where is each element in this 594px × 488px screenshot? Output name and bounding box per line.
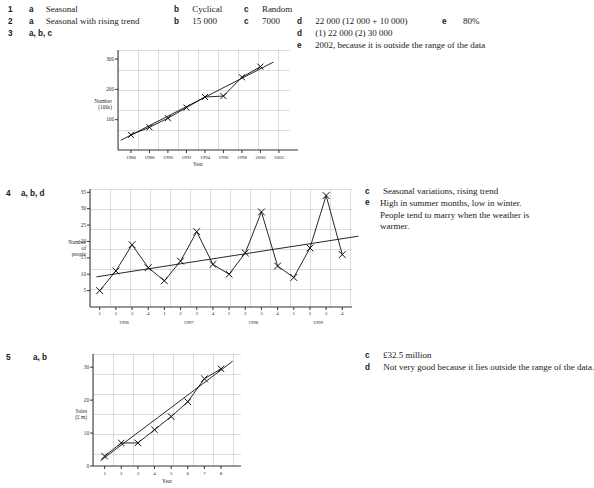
part-text-1b: Cyclical <box>192 4 222 14</box>
part-label-1a: a <box>29 5 34 14</box>
part-text-3d: (1) 22 000 (2) 30 000 <box>315 28 392 38</box>
part-text-3e: 2002, because it is outside the range of… <box>315 40 485 50</box>
part-inline-q3: a, b, c <box>29 29 52 38</box>
chart-q5: Sales(£ m) Year 010203012345678 <box>55 348 255 488</box>
part-label-4e: e <box>365 198 370 209</box>
answer-part-5d: d Not very good because it lies outside … <box>365 362 594 374</box>
answer-part-4c: c Seasonal variations, rising trend <box>365 186 537 198</box>
chart-q3-y-axis-title: Number(100s) <box>66 98 112 110</box>
question-number-2: 2 <box>8 17 13 26</box>
part-label-2c: c <box>244 17 249 26</box>
answer-part-5c: c £32.5 million <box>365 350 431 362</box>
answer-part-2c: c 7000 <box>244 16 280 28</box>
question-number-3: 3 <box>8 29 13 38</box>
part-text-1a: Seasonal <box>46 4 78 14</box>
part-label-4c: c <box>365 187 370 196</box>
question-number-4: 4 <box>6 189 11 198</box>
part-label-2a: a <box>29 17 34 26</box>
answer-part-3e: e 2002, because it is outside the range … <box>297 40 485 52</box>
answer-row-q1: 1 a Seasonal <box>8 4 78 16</box>
answer-part-3d: d (1) 22 000 (2) 30 000 <box>297 28 393 40</box>
answer-part-1b: b Cyclical <box>174 4 222 16</box>
part-label-3d: d <box>297 29 302 38</box>
part-label-5c: c <box>365 351 370 360</box>
answer-part-2d: d 22 000 (12 000 + 10 000) <box>297 16 407 28</box>
answer-row-q3: 3 a, b, c <box>8 28 52 40</box>
part-text-2d: 22 000 (12 000 + 10 000) <box>315 16 407 26</box>
part-label-2b: b <box>174 17 179 26</box>
answer-part-1c: c Random <box>244 4 292 16</box>
answer-row-q5: 5 a, b <box>6 352 47 364</box>
chart-q5-x-axis-title: Year <box>137 478 197 484</box>
answer-part-4e: e High in summer months, low in winter. … <box>365 198 535 233</box>
part-label-2d: d <box>297 17 302 26</box>
part-text-5d: Not very good because it lies outside th… <box>383 362 594 372</box>
part-label-2e: e <box>442 17 447 26</box>
chart-q3: Number(100s) Year 1002003001986198819901… <box>60 44 300 169</box>
answer-part-2e: e 80% <box>442 16 479 28</box>
part-text-2a: Seasonal with rising trend <box>46 16 140 26</box>
part-text-2b: 15 000 <box>192 16 217 26</box>
part-text-2c: 7000 <box>262 16 280 26</box>
part-inline-q5: a, b <box>33 353 47 362</box>
answer-part-2b: b 15 000 <box>174 16 217 28</box>
part-text-4e: High in summer months, low in winter. Pe… <box>380 198 535 233</box>
question-number-1: 1 <box>8 5 13 14</box>
part-text-5c: £32.5 million <box>383 350 432 360</box>
part-text-2e: 80% <box>463 16 480 26</box>
part-label-5d: d <box>365 363 370 372</box>
answer-row-q2: 2 a Seasonal with rising trend <box>8 16 140 28</box>
chart-q4: Numberofpeople 5101520253035123412341234… <box>54 183 364 333</box>
chart-q3-x-axis-title: Year <box>168 161 228 167</box>
part-label-1c: c <box>244 5 249 14</box>
part-text-4c: Seasonal variations, rising trend <box>383 186 498 196</box>
answer-row-q4: 4 a, b, d <box>6 188 45 200</box>
part-inline-q4: a, b, d <box>21 189 45 198</box>
part-text-1c: Random <box>262 4 293 14</box>
part-label-1b: b <box>174 5 179 14</box>
question-number-5: 5 <box>6 353 11 362</box>
chart-q5-y-axis-title: Sales(£ m) <box>53 408 87 420</box>
